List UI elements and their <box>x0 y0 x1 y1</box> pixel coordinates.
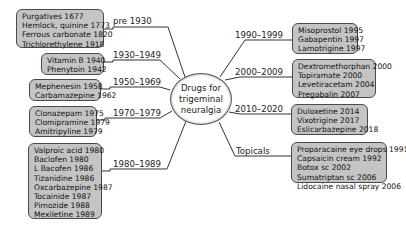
branch-label-topicals: Topicals <box>236 146 270 156</box>
drug-item: Mexiletine 1989 <box>34 210 96 219</box>
drug-item: Baclofen 1980 <box>34 155 96 164</box>
drug-item: Capsaicin cream 1992 <box>297 154 381 163</box>
drug-item: Dextromethorphan 2000 <box>298 62 370 71</box>
center-line-3: neuralgia <box>181 105 221 116</box>
drug-item: Amitripyline 1979 <box>35 127 91 136</box>
drug-item: Hemlock, quinine 1773 <box>22 21 98 30</box>
drug-item: Topiramate 2000 <box>298 71 370 80</box>
drug-item: Purgatives 1677 <box>22 12 98 21</box>
branch-label-1930-1949: 1930–1949 <box>113 50 161 60</box>
callout-1980-1989: Valproic acid 1980 Baclofen 1980 L Bacof… <box>28 143 102 219</box>
drug-item: Levetiracetam 2004 <box>298 80 370 89</box>
branch-label-1980-1989: 1980–1989 <box>113 159 161 169</box>
drug-item: Tizanidine 1986 <box>34 174 96 183</box>
drug-item: Clonazepam 1975 <box>35 109 91 118</box>
callout-2000-2009: Dextromethorphan 2000 Topiramate 2000 Le… <box>292 59 376 98</box>
drug-item: Lidocaine nasal spray 2006 <box>297 182 381 191</box>
drug-item: Oxcarbazepine 1987 <box>34 183 96 192</box>
drug-item: Gabapentin 1997 <box>298 35 352 44</box>
drug-item: Misoprostol 1995 <box>298 26 352 35</box>
drug-item: Botox sc 2002 <box>297 163 381 172</box>
drug-item: Ferrous carbonate 1820 <box>22 30 98 39</box>
center-topic: Drugs for trigeminal neuralgia <box>170 73 232 125</box>
callout-1930-1949: Vitamin B 1940 Phenytoin 1942 <box>41 53 104 75</box>
drug-item: Pimozide 1988 <box>34 201 96 210</box>
callout-pre-1930: Purgatives 1677 Hemlock, quinine 1773 Fe… <box>16 9 104 48</box>
drug-item: Trichlorethylene 1918 <box>22 40 98 49</box>
callout-1970-1979: Clonazepam 1975 Clomipramine 1979 Amitri… <box>29 106 97 137</box>
drug-item: Duloxetine 2014 <box>297 107 362 116</box>
drug-item: Sumatriptan sc 2006 <box>297 173 381 182</box>
drug-item: Phenytoin 1942 <box>47 65 98 74</box>
callout-topicals: Proparacaine eye drops 1991 Capsaicin cr… <box>291 142 387 183</box>
center-line-2: trigeminal <box>179 94 223 105</box>
callout-2010-2020: Duloxetine 2014 Vixotrigine 2017 Eslicar… <box>291 104 368 135</box>
drug-item: L Bacofen 1986 <box>34 164 96 173</box>
branch-label-pre-1930: pre 1930 <box>113 16 152 26</box>
drug-item: Carbamazepine 1962 <box>35 91 95 100</box>
drug-item: Tocainide 1987 <box>34 192 96 201</box>
drug-item: Mephenesin 1958 <box>35 82 95 91</box>
branch-label-1990-1999: 1990–1999 <box>235 30 283 40</box>
drug-item: Proparacaine eye drops 1991 <box>297 145 381 154</box>
drug-item: Pregabalin 2007 <box>298 90 370 99</box>
drug-item: Clomipramine 1979 <box>35 118 91 127</box>
drug-item: Vixotrigine 2017 <box>297 116 362 125</box>
branch-label-1950-1969: 1950–1969 <box>113 77 161 87</box>
drug-item: Lamotrigine 1997 <box>298 44 352 53</box>
center-line-1: Drugs for <box>181 83 221 94</box>
callout-1950-1969: Mephenesin 1958 Carbamazepine 1962 <box>29 79 101 101</box>
branch-label-1970-1979: 1970–1979 <box>113 108 161 118</box>
branch-label-2010-2020: 2010–2020 <box>235 104 283 114</box>
callout-1990-1999: Misoprostol 1995 Gabapentin 1997 Lamotri… <box>292 23 358 54</box>
drug-item: Vitamin B 1940 <box>47 56 98 65</box>
branch-label-2000-2009: 2000–2009 <box>235 67 283 77</box>
connector-1950-1969 <box>101 87 170 90</box>
drug-item: Eslicarbazepine 2018 <box>297 125 362 134</box>
drug-item: Valproic acid 1980 <box>34 146 96 155</box>
